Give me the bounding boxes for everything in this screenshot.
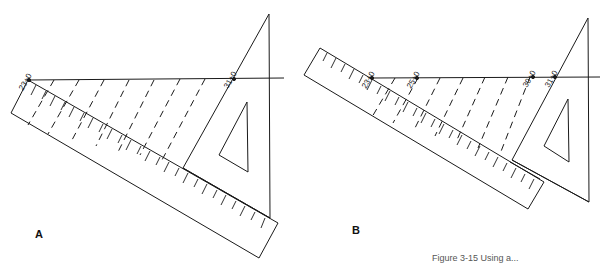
panel-a-scale-ticks xyxy=(31,85,265,228)
panel-a-drawing xyxy=(11,14,284,258)
panel-b-drawing xyxy=(304,18,600,209)
panel-b-station-label-3: 30+0 xyxy=(521,68,538,89)
panel-b-baseline xyxy=(372,77,600,78)
panel-b-station-label-1: 23+0 xyxy=(360,69,377,90)
panel-b-triangle xyxy=(512,18,589,202)
panel-a-triangle-cutout xyxy=(219,102,248,172)
panel-b-scale xyxy=(304,48,544,209)
panel-a-triangle xyxy=(183,14,270,218)
panel-b-scale-ticks xyxy=(323,53,534,189)
panel-b-triangle-cutout xyxy=(544,99,569,162)
panel-a-label: A xyxy=(35,228,43,240)
panel-b-station-label-4: 31+0 xyxy=(543,68,560,89)
panel-a-baseline xyxy=(28,78,284,80)
figure-caption: Figure 3-15 Using a... xyxy=(432,253,519,263)
panel-a-scale xyxy=(11,80,278,258)
panel-b-station-label-2: 25+0 xyxy=(405,69,422,90)
panel-a-dashed-lines xyxy=(28,79,205,160)
panel-b-label: B xyxy=(352,224,360,236)
panel-b-dashed-lines xyxy=(372,77,530,154)
